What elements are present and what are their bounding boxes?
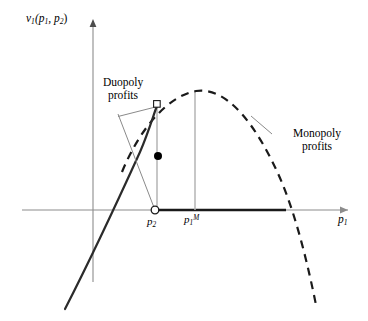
y-axis-label-open: (p	[35, 12, 45, 24]
marker-open-circle-p2	[151, 206, 159, 214]
marker-filled-dot-duopoly-payoff	[154, 152, 162, 160]
profit-function-plot	[0, 0, 368, 321]
duopoly-profit-curve	[65, 105, 158, 310]
x-axis-label-sub: 1	[344, 218, 348, 227]
x-axis-label: p1	[338, 213, 348, 228]
y-axis-label: v1(p1, p2)	[26, 12, 67, 27]
tick-p2-sub: 2	[153, 221, 157, 229]
y-axis-arrowhead	[90, 19, 97, 27]
y-axis-label-comma: , p	[48, 12, 60, 24]
leader-line-duopoly-square	[118, 107, 156, 117]
annotation-monopoly-line2: profits	[274, 140, 360, 153]
tick-label-p2: p2	[147, 215, 156, 229]
annotation-duopoly-line2: profits	[77, 89, 169, 102]
tick-pm-sup: M	[193, 214, 199, 222]
annotation-duopoly-profits: Duopoly profits	[77, 76, 169, 102]
y-axis-label-close: )	[64, 12, 68, 24]
annotation-duopoly-line1: Duopoly	[77, 76, 169, 89]
tick-label-p1-monopoly: p1M	[184, 213, 199, 227]
figure-duopoly-monopoly-profits: v1(p1, p2) p1 p2 p1M Duopoly profits Mon…	[0, 0, 368, 321]
annotation-monopoly-profits: Monopoly profits	[274, 127, 360, 153]
annotation-monopoly-line1: Monopoly	[274, 127, 360, 140]
